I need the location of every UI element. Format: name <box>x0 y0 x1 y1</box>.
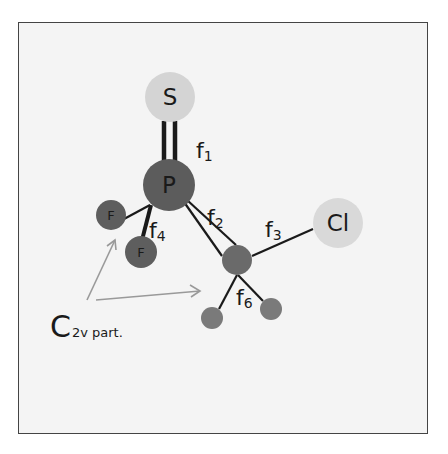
arrow-to-h-shaft <box>96 291 200 300</box>
atom-h1 <box>201 307 223 329</box>
atom-cl: Cl <box>313 198 363 248</box>
bond-label-f2: f2 <box>207 205 224 231</box>
atom-label: F <box>137 245 144 260</box>
atom-label: F <box>107 208 114 223</box>
c2v-sub: 2v part. <box>72 325 123 340</box>
bond-label-f3: f3 <box>265 217 282 243</box>
c2v-main: C <box>50 309 71 344</box>
bond-label-f4: f4 <box>149 218 166 244</box>
atom-label: Cl <box>327 210 349 236</box>
molecule-diagram: SPFFCl f1f2f3f4f6 C2v part. <box>0 0 448 454</box>
atom-label: P <box>162 172 176 198</box>
atom-circle <box>260 298 282 320</box>
bond-label-f1: f1 <box>196 138 213 164</box>
atom-h2 <box>260 298 282 320</box>
bond-c-h1 <box>219 275 237 309</box>
arrow-to-f-shaft <box>87 240 115 300</box>
atom-circle <box>222 245 252 275</box>
atom-p: P <box>143 159 195 211</box>
atom-circle <box>201 307 223 329</box>
bond-c-cl <box>252 229 313 256</box>
atom-c <box>222 245 252 275</box>
atom-s: S <box>145 72 195 122</box>
atom-label: S <box>163 84 178 110</box>
c2v-annotation: C2v part. <box>50 309 123 344</box>
atom-f1: F <box>96 200 126 230</box>
